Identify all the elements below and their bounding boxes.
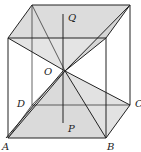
cube-diagram: Q O D C P A B xyxy=(0,0,141,152)
label-p: P xyxy=(67,123,75,134)
label-d: D xyxy=(16,98,25,109)
label-q: Q xyxy=(68,12,76,23)
label-c: C xyxy=(135,98,141,109)
label-b: B xyxy=(106,141,114,152)
label-a: A xyxy=(1,141,9,152)
label-o: O xyxy=(44,66,52,77)
cube-figure: Q O D C P A B xyxy=(0,0,141,152)
